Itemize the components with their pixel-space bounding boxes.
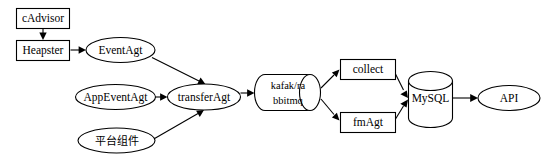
node-appeventagt-label: AppEventAgt: [84, 91, 149, 104]
node-message-queue[interactable]: kafak/ra bbitmq: [255, 75, 321, 111]
edge-queue-to-collect: [321, 70, 340, 89]
node-eventagt-label: EventAgt: [98, 44, 143, 57]
node-message-queue-label-line1: kafak/ra: [271, 80, 306, 91]
edge-eventagt-to-transferagt: [152, 58, 206, 85]
edge-appeventagt-to-transferagt: [156, 93, 168, 100]
node-collect[interactable]: collect: [341, 60, 396, 80]
node-appeventagt[interactable]: AppEventAgt: [76, 85, 156, 110]
edge-heapster-to-eventagt: [71, 46, 87, 53]
edge-platform-to-transferagt: [152, 110, 204, 140]
pipeline-diagram: cAdvisor Heapster EventAgt AppEventAgt 平…: [0, 0, 544, 164]
edge-transferagt-to-queue: [241, 89, 255, 96]
node-cadvisor-label: cAdvisor: [22, 12, 64, 24]
node-eventagt[interactable]: EventAgt: [86, 38, 155, 63]
node-heapster-label: Heapster: [23, 44, 64, 57]
edge-fmagt-to-mysql: [396, 100, 409, 120]
edge-queue-to-fmagt: [321, 99, 340, 121]
node-heapster[interactable]: Heapster: [17, 41, 70, 61]
node-collect-label: collect: [353, 63, 384, 75]
node-platform-component-label: 平台组件: [95, 134, 139, 148]
node-transferagt-label: transferAgt: [178, 91, 231, 104]
node-mysql-label: MySQL: [412, 92, 450, 105]
node-transferagt[interactable]: transferAgt: [168, 84, 241, 110]
node-platform-component[interactable]: 平台组件: [78, 128, 155, 153]
node-fmagt-label: fmAgt: [353, 116, 384, 129]
edge-cadvisor-to-heapster: [39, 29, 46, 41]
node-fmagt[interactable]: fmAgt: [341, 113, 396, 133]
node-api-label: API: [500, 92, 519, 104]
node-cadvisor[interactable]: cAdvisor: [17, 9, 70, 29]
node-mysql[interactable]: MySQL: [409, 72, 453, 128]
edge-mysql-to-api: [452, 94, 478, 102]
node-message-queue-label-line2: bbitmq: [273, 95, 304, 106]
node-api[interactable]: API: [478, 86, 540, 111]
diagram-canvas: cAdvisor Heapster EventAgt AppEventAgt 平…: [0, 0, 544, 164]
edge-collect-to-mysql: [396, 74, 409, 98]
